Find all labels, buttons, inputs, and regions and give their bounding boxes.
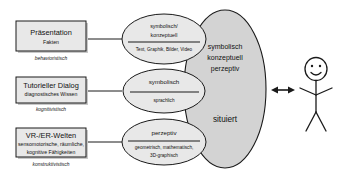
diagram-canvas: symbolisch konzeptuell perzeptiv situier… bbox=[0, 0, 344, 178]
ellipse-presentation-top-line1: symbolisch/ bbox=[150, 23, 178, 29]
box-presentation-paradigm: behavioristisch bbox=[35, 56, 68, 61]
row-vr-er-worlds: VR-/ER-Welten sensomotorische, räumliche… bbox=[16, 119, 206, 167]
stick-figure-head bbox=[305, 58, 327, 81]
ellipse-presentation-shape bbox=[122, 14, 206, 64]
row-tutorial-dialog: Tutorieller Dialog diagnostisches Wissen… bbox=[16, 69, 205, 113]
ellipse-perceptive-top: perzeptiv bbox=[151, 129, 177, 136]
stick-figure-eye-left bbox=[311, 65, 313, 67]
main-ellipse-line1: symbolisch bbox=[208, 43, 243, 51]
main-ellipse-situiert: situiert bbox=[213, 115, 238, 124]
box-presentation-subtitle: Fakten bbox=[43, 39, 59, 45]
box-vr-er-worlds-title: VR-/ER-Welten bbox=[26, 131, 76, 140]
ellipse-symbolic-top: symbolisch bbox=[149, 78, 180, 85]
diagram-svg: symbolisch konzeptuell perzeptiv situier… bbox=[0, 0, 344, 178]
ellipse-presentation-bottom: Text, Graphik, Bilder, Video bbox=[136, 47, 193, 52]
box-tutorial-dialog-subtitle: diagnostisches Wissen bbox=[25, 91, 78, 97]
arrow-head-left bbox=[271, 87, 278, 94]
ellipse-perceptive-bottom-line2: 3D-graphisch bbox=[150, 153, 178, 158]
bidirectional-arrow-icon bbox=[271, 87, 295, 94]
ellipse-symbolic-shape bbox=[123, 69, 205, 113]
box-vr-er-worlds-subtitle-line2: kognitive Fähigkeiten bbox=[27, 149, 76, 155]
stick-figure-leg-right bbox=[316, 112, 326, 131]
row-presentation: Präsentation Fakten behavioristisch symb… bbox=[16, 14, 206, 64]
box-vr-er-worlds-subtitle-line1: sensomotorische, räumliche, bbox=[18, 141, 84, 147]
ellipse-symbolic-bottom: sprachlich bbox=[153, 98, 174, 103]
arrow-head-right bbox=[288, 87, 295, 94]
stick-figure-arm-left bbox=[300, 88, 316, 95]
learner-stick-figure bbox=[300, 58, 332, 132]
main-ellipse-line3: perzeptiv bbox=[211, 65, 240, 73]
box-vr-er-worlds-paradigm: konstruktivistisch bbox=[33, 162, 70, 167]
box-tutorial-dialog-title: Tutorieller Dialog bbox=[23, 81, 79, 90]
main-ellipse-line2: konzeptuell bbox=[207, 54, 243, 62]
stick-figure-arm-right bbox=[316, 88, 332, 95]
box-presentation-title: Präsentation bbox=[30, 28, 72, 37]
stick-figure-leg-left bbox=[306, 112, 316, 131]
box-tutorial-dialog-paradigm: kognitivistisch bbox=[36, 107, 66, 112]
ellipse-perceptive-bottom-line1: geometrisch, mathematisch, bbox=[135, 145, 194, 150]
stick-figure-eye-right bbox=[319, 65, 321, 67]
ellipse-presentation-top-line2: konzeptuell bbox=[151, 32, 178, 38]
